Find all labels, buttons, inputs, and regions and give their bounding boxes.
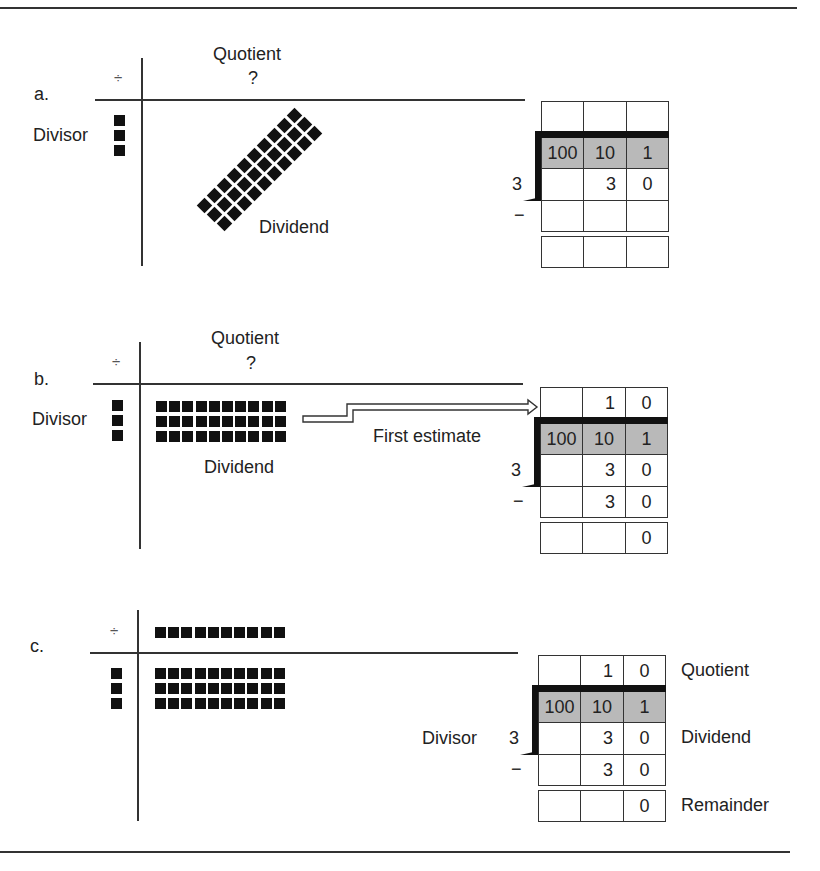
- unit-block: [114, 115, 125, 126]
- grid-cell: 3: [580, 722, 624, 755]
- grid-cell: [626, 200, 669, 232]
- grid-cell: [538, 655, 581, 687]
- unit-block: [168, 627, 179, 638]
- division-sign: ÷: [112, 353, 120, 370]
- minus-sign: −: [514, 205, 525, 226]
- unit-block: [234, 627, 245, 638]
- unit-block: [181, 668, 192, 679]
- unit-block: [208, 668, 219, 679]
- minus-sign: −: [511, 759, 522, 780]
- grid-cell: [583, 101, 627, 133]
- grid-cell: 0: [625, 387, 668, 419]
- unit-block: [221, 698, 232, 709]
- place-header-cell: 10: [582, 423, 626, 455]
- unit-block: [248, 401, 259, 412]
- grid-cell: 0: [625, 454, 668, 487]
- panel-letter: c.: [30, 636, 44, 657]
- unit-block: [156, 431, 167, 442]
- unit-block: [208, 627, 219, 638]
- unit-block: [181, 627, 192, 638]
- grid-cell: [540, 522, 583, 554]
- unit-block: [155, 698, 166, 709]
- unit-block: [182, 416, 193, 427]
- place-header-cell: 1: [625, 423, 668, 455]
- unit-block: [235, 431, 246, 442]
- divisor-number: 3: [511, 460, 521, 481]
- dividend-label: Dividend: [259, 217, 329, 238]
- unit-block: [247, 627, 258, 638]
- unit-block: [195, 668, 206, 679]
- place-header-cell: 100: [540, 423, 583, 455]
- place-header-cell: 100: [541, 137, 584, 169]
- grid-cell: 3: [580, 754, 624, 786]
- vertical-axis: [141, 58, 143, 266]
- place-header-cell: 10: [580, 691, 624, 723]
- quotient-value: ?: [248, 68, 258, 89]
- unit-block: [275, 416, 286, 427]
- unit-block: [222, 416, 233, 427]
- unit-block: [257, 176, 273, 192]
- horizontal-axis: [95, 99, 525, 101]
- quotient-label: Quotient: [211, 328, 279, 349]
- unit-block: [247, 698, 258, 709]
- grid-cell: 1: [582, 387, 626, 419]
- division-bracket-foot: [522, 483, 540, 487]
- division-bracket-top: [532, 685, 666, 692]
- unit-block: [196, 401, 207, 412]
- grid-cell: 0: [625, 522, 668, 554]
- divisor-number: 3: [512, 174, 522, 195]
- grid-cell: [541, 200, 584, 232]
- grid-cell: [540, 387, 583, 419]
- place-header-cell: 100: [538, 691, 581, 723]
- grid-cell: [582, 522, 626, 554]
- first-estimate-arrow-icon: [300, 394, 540, 430]
- row-label-dividend: Dividend: [681, 727, 751, 748]
- unit-block: [209, 431, 220, 442]
- unit-block: [262, 401, 273, 412]
- unit-block: [307, 126, 323, 142]
- unit-block: [247, 683, 258, 694]
- unit-block: [275, 431, 286, 442]
- grid-cell: [626, 101, 669, 133]
- unit-block: [155, 668, 166, 679]
- unit-block: [208, 698, 219, 709]
- unit-block: [168, 683, 179, 694]
- grid-cell: 3: [583, 168, 627, 201]
- place-header-cell: 1: [626, 137, 669, 169]
- unit-block: [247, 186, 263, 202]
- unit-block: [222, 401, 233, 412]
- quotient-value: ?: [246, 353, 256, 374]
- top-rule: [0, 7, 797, 9]
- horizontal-axis: [90, 652, 518, 654]
- division-sign: ÷: [114, 69, 122, 86]
- unit-block: [287, 146, 303, 162]
- division-bracket-top: [534, 417, 668, 424]
- division-bracket-foot: [523, 197, 541, 201]
- unit-block: [274, 668, 285, 679]
- unit-block: [168, 698, 179, 709]
- grid-cell: [626, 236, 669, 268]
- grid-cell: 0: [623, 790, 666, 822]
- grid-cell: [541, 101, 584, 133]
- grid-cell: 0: [626, 168, 669, 201]
- dividend-label: Dividend: [204, 457, 274, 478]
- unit-block: [195, 698, 206, 709]
- grid-cell: 1: [580, 655, 624, 687]
- horizontal-axis: [93, 383, 523, 385]
- unit-block: [275, 401, 286, 412]
- unit-block: [217, 216, 233, 232]
- unit-block: [209, 416, 220, 427]
- division-bracket-top: [535, 131, 669, 138]
- unit-block: [168, 668, 179, 679]
- unit-block: [196, 416, 207, 427]
- grid-cell: [540, 486, 583, 518]
- unit-block: [209, 401, 220, 412]
- grid-cell: [538, 790, 581, 822]
- unit-block: [227, 206, 243, 222]
- bottom-rule: [0, 851, 790, 853]
- divisor-label: Divisor: [33, 125, 88, 146]
- unit-block: [235, 416, 246, 427]
- minus-sign: −: [513, 491, 524, 512]
- row-label-remainder: Remainder: [681, 795, 769, 816]
- unit-block: [261, 668, 272, 679]
